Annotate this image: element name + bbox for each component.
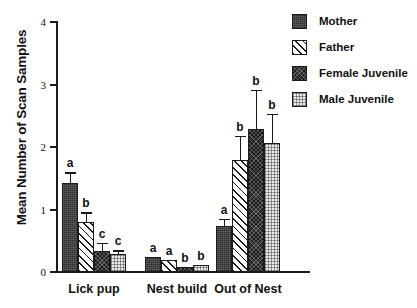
error-bar-stem xyxy=(86,212,88,222)
error-bar-cap xyxy=(65,172,76,174)
bar xyxy=(110,254,126,272)
bar-chart-figure: Mean Number of Scan Samples 01234 Lick p… xyxy=(0,0,417,308)
bar xyxy=(232,160,248,272)
legend-label: Mother xyxy=(319,15,357,27)
bar xyxy=(248,129,264,272)
legend-label: Female Juvenile xyxy=(319,67,408,79)
legend-swatch-icon xyxy=(292,14,307,29)
legend-item-male-juvenile: Male Juvenile xyxy=(292,86,417,112)
error-bar-cap xyxy=(97,243,108,245)
error-bar-cap xyxy=(251,90,262,92)
significance-letter: b xyxy=(230,121,250,133)
legend-label: Father xyxy=(319,41,354,53)
y-tick-0 xyxy=(50,271,57,273)
y-tick-label-0: 0 xyxy=(32,267,46,277)
error-bar-stem xyxy=(70,172,72,183)
error-bar-cap xyxy=(235,136,246,138)
bar xyxy=(94,251,110,272)
error-bar xyxy=(232,136,248,160)
y-tick-3 xyxy=(50,84,57,86)
y-tick-4 xyxy=(50,21,57,23)
legend: MotherFatherFemale JuvenileMale Juvenile xyxy=(292,8,417,112)
error-bar-stem xyxy=(256,90,258,129)
legend-swatch-icon xyxy=(292,40,307,55)
bar xyxy=(216,226,232,272)
legend-item-mother: Mother xyxy=(292,8,417,34)
y-tick-label-1: 1 xyxy=(32,205,46,215)
bar xyxy=(145,257,161,272)
error-bar xyxy=(264,114,280,143)
error-bar xyxy=(62,172,78,183)
significance-letter: b xyxy=(76,197,96,209)
y-tick-label-2: 2 xyxy=(32,142,46,152)
error-bar-stem xyxy=(240,136,242,160)
error-bar-cap xyxy=(267,114,278,116)
error-bar xyxy=(110,250,126,254)
legend-swatch-icon xyxy=(292,92,307,107)
y-tick-label-4: 4 xyxy=(32,17,46,27)
bar xyxy=(264,143,280,272)
significance-letter: a xyxy=(214,204,234,216)
legend-label: Male Juvenile xyxy=(319,93,394,105)
error-bar-cap xyxy=(113,250,124,252)
bar xyxy=(177,267,193,272)
x-group-label-2: Out of Nest xyxy=(198,282,298,296)
significance-letter: b xyxy=(191,250,211,262)
legend-item-father: Father xyxy=(292,34,417,60)
significance-letter: c xyxy=(108,235,128,247)
error-bar-cap xyxy=(219,219,230,221)
error-bar xyxy=(216,219,232,227)
y-tick-2 xyxy=(50,146,57,148)
bar xyxy=(193,265,209,272)
error-bar-stem xyxy=(272,114,274,143)
significance-letter: a xyxy=(60,157,80,169)
y-axis-title: Mean Number of Scan Samples xyxy=(14,3,29,253)
error-bar-cap xyxy=(81,212,92,214)
y-tick-1 xyxy=(50,209,57,211)
error-bar xyxy=(78,212,94,222)
legend-swatch-icon xyxy=(292,66,307,81)
significance-letter: b xyxy=(262,99,282,111)
significance-letter: b xyxy=(246,75,266,87)
legend-item-female-juvenile: Female Juvenile xyxy=(292,60,417,86)
y-tick-label-3: 3 xyxy=(32,80,46,90)
